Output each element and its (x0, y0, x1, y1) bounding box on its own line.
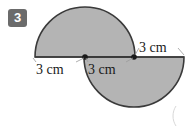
dimension-label-right: 3 cm (139, 41, 167, 55)
upper-semicircle-shape (35, 7, 135, 57)
leader-line-left-end (76, 58, 84, 62)
vertex-dot-left (82, 54, 88, 60)
leader-line-right-end (178, 48, 184, 55)
figure-page: 3 3 cm 3 cm 3 cm (0, 0, 189, 128)
dimension-label-left: 3 cm (36, 63, 64, 77)
stray-paren-mark-icon (173, 106, 176, 126)
dimension-label-middle: 3 cm (88, 63, 116, 77)
